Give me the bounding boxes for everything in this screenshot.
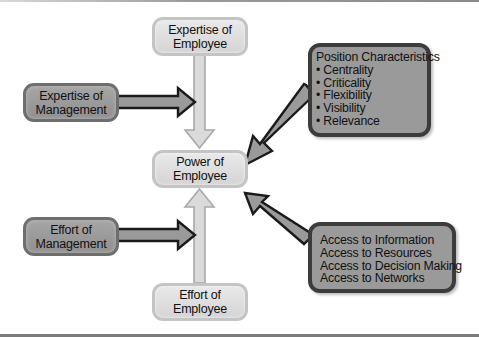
node-access: Access to Information Access to Resource… [308,222,456,293]
arrow-position-to-power [245,84,314,165]
list-item: Access to Resources [320,247,462,260]
node-expertise-of-employee: Expertise of Employee [152,17,248,56]
node-position-characteristics: Position Characteristics Centrality Crit… [308,43,431,137]
node-label-line2: Employee [173,169,227,183]
list-item: Access to Information [320,234,462,247]
arrow-effort-management [116,221,195,249]
node-effort-of-management: Effort of Management [23,217,119,256]
node-power-of-employee: Power of Employee [152,150,248,188]
list-item: Access to Networks [320,272,462,285]
node-label-line1: Effort of [50,223,92,237]
node-label-line1: Expertise of [39,89,103,103]
node-label-line2: Employee [173,302,227,316]
arrow-access-to-power [245,193,312,244]
arrow-expertise-management [116,88,195,116]
node-label-line1: Power of [176,155,224,169]
node-expertise-of-management: Expertise of Management [23,83,119,122]
node-effort-of-employee: Effort of Employee [152,283,248,321]
node-label-line1: Expertise of [168,23,232,37]
node-label-line2: Management [36,237,107,251]
list-item: Relevance [316,115,440,128]
list-item: Centrality [316,64,440,77]
node-label-line1: Effort of [179,288,221,302]
bottom-rule [0,334,479,337]
node-label-line2: Employee [173,37,227,51]
node-label-line2: Management [36,103,107,117]
position-characteristics-title: Position Characteristics [316,51,440,64]
